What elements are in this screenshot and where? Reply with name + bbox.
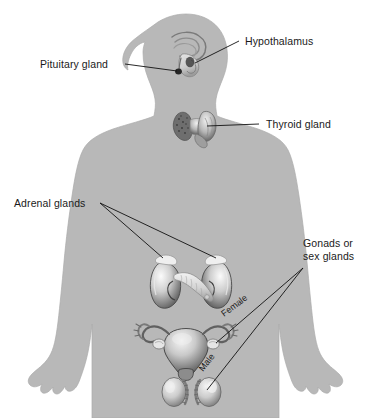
label-gonads-line1: Gonads or [303, 237, 353, 249]
label-thyroid-gland: Thyroid gland [266, 118, 331, 130]
ovary-left [153, 339, 165, 349]
label-gonads-line2: sex glands [303, 250, 354, 262]
label-hypothalamus: Hypothalamus [245, 35, 313, 47]
ovary-right [207, 339, 219, 349]
label-pituitary-gland: Pituitary gland [40, 58, 108, 70]
label-adrenal-glands: Adrenal glands [14, 197, 85, 209]
endocrine-diagram: Hypothalamus Pituitary gland Thyroid gla… [0, 0, 371, 418]
diagram-canvas: Hypothalamus Pituitary gland Thyroid gla… [0, 0, 371, 418]
pituitary-gland-organ [175, 69, 182, 75]
